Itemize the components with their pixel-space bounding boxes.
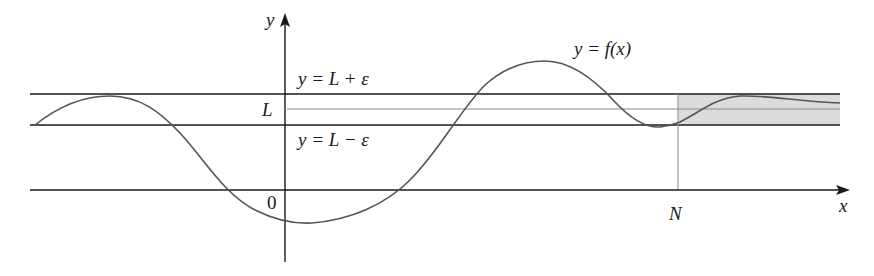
lower-line-label: y = L − ε [296, 129, 369, 150]
upper-line-label: y = L + ε [296, 68, 369, 89]
curve-label: y = f(x) [572, 38, 631, 60]
L-label: L [261, 99, 273, 120]
N-label: N [668, 203, 683, 224]
limit-at-infinity-diagram: y x 0 L N y = L + ε y = L − ε y = f(x) [0, 0, 874, 276]
origin-label: 0 [267, 192, 277, 213]
curve-f [35, 61, 840, 223]
x-axis-label: x [838, 195, 848, 216]
y-axis-label: y [264, 9, 275, 30]
